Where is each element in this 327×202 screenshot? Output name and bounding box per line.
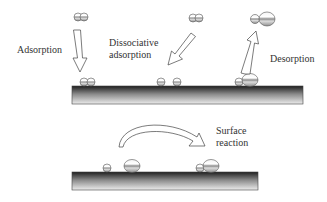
gas-molecule-dissociative: [189, 14, 203, 22]
gas-molecule-adsorption: [74, 13, 88, 21]
adsorbed-molecule: [80, 78, 95, 86]
desorption-arrow-icon: [241, 31, 259, 74]
surface-reaction-arrow-icon: [119, 125, 205, 147]
bottom-surface: [72, 172, 258, 190]
diagram-canvas: [0, 0, 327, 202]
dissociated-atoms: [157, 78, 181, 86]
adsorption-label: Adsorption: [17, 44, 62, 55]
reaction-product: [196, 160, 219, 173]
surface-reaction-label-line1: Surface: [216, 125, 247, 136]
desorbed-molecule: [251, 12, 276, 26]
desorption-label: Desorption: [270, 53, 314, 64]
surface-product: [235, 74, 258, 87]
reactant-atoms: [103, 160, 140, 173]
top-surface: [72, 86, 303, 104]
dissociative-label-line1: Dissociative: [109, 37, 158, 48]
dissociative-arrow-icon: [168, 33, 196, 65]
surface-reaction-label-line2: reaction: [216, 137, 248, 148]
adsorption-arrow-icon: [73, 30, 87, 72]
dissociative-label-line2: adsorption: [109, 49, 151, 60]
